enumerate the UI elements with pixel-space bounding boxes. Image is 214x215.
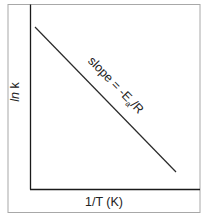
data-line — [35, 27, 176, 172]
y-axis-label: ln k — [8, 82, 22, 102]
svg-text:ln k: ln k — [8, 82, 22, 102]
y-label-prefix: ln — [8, 92, 22, 102]
slope-annotation: slope = -Ea/R — [84, 54, 147, 118]
outer-frame — [8, 5, 200, 213]
x-axis-label: 1/T (K) — [85, 195, 123, 209]
arrhenius-plot: slope = -Ea/R ln k 1/T (K) — [0, 0, 214, 215]
y-label-var: k — [8, 82, 22, 89]
slope-prefix: slope = -E — [85, 54, 135, 104]
svg-text:slope = -Ea/R: slope = -Ea/R — [84, 54, 147, 118]
